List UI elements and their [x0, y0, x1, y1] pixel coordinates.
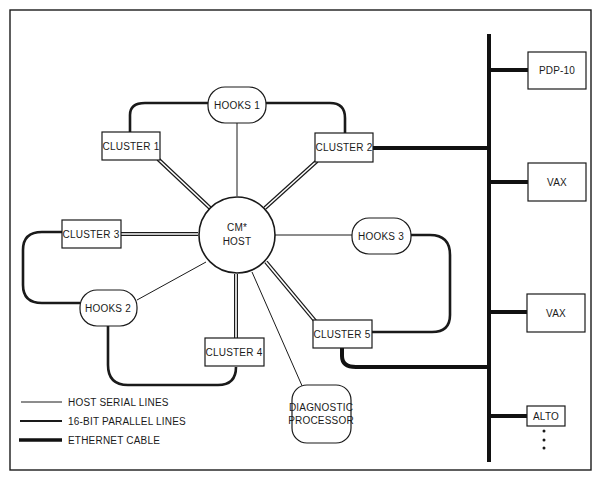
pdp10-node: PDP-10 — [528, 52, 586, 89]
cluster-1-label: CLUSTER 1 — [103, 141, 160, 152]
cluster-4-label: CLUSTER 4 — [206, 347, 263, 358]
vax-2-label: VAX — [546, 308, 566, 319]
cm-host-label-1: CM* — [227, 222, 247, 233]
hooks-2-label: HOOKS 2 — [85, 303, 131, 314]
legend-ethernet-label: ETHERNET CABLE — [68, 435, 160, 446]
hooks-2-node: HOOKS 2 — [80, 290, 137, 326]
alto-node: ALTO — [527, 406, 565, 426]
cluster-2-label: CLUSTER 2 — [316, 142, 373, 153]
hooks-1-node: HOOKS 1 — [208, 87, 266, 123]
cluster-4-node: CLUSTER 4 — [205, 338, 264, 366]
diagnostic-label-2: PROCESSOR — [288, 415, 354, 426]
hooks-1-label: HOOKS 1 — [214, 100, 260, 111]
hooks-3-label: HOOKS 3 — [358, 231, 404, 242]
hooks-3-node: HOOKS 3 — [352, 218, 411, 254]
vax-1-label: VAX — [547, 177, 567, 188]
cm-host-node: CM* HOST — [199, 197, 275, 273]
cluster-5-label: CLUSTER 5 — [314, 329, 371, 340]
vax-1-node: VAX — [528, 163, 586, 201]
cluster-3-label: CLUSTER 3 — [63, 229, 120, 240]
vax-2-node: VAX — [527, 294, 585, 332]
alto-label: ALTO — [533, 411, 559, 422]
diagnostic-processor-node: DIAGNOSTIC PROCESSOR — [288, 385, 354, 443]
legend: HOST SERIAL LINES 16-BIT PARALLEL LINES … — [19, 397, 186, 446]
cluster-1-node: CLUSTER 1 — [102, 132, 160, 160]
cm-star-network-diagram: CM* HOST HOOKS 1 HOOKS 2 HOOKS 3 CLUSTER… — [0, 0, 607, 485]
cm-host-label-2: HOST — [223, 236, 252, 247]
continuation-dots — [543, 430, 546, 450]
legend-serial-label: HOST SERIAL LINES — [68, 397, 169, 408]
diagnostic-label-1: DIAGNOSTIC — [289, 402, 353, 413]
cluster-5-node: CLUSTER 5 — [313, 320, 372, 348]
legend-parallel-label: 16-BIT PARALLEL LINES — [68, 416, 186, 427]
cluster-2-node: CLUSTER 2 — [315, 133, 373, 162]
pdp10-label: PDP-10 — [539, 65, 575, 76]
cluster-3-node: CLUSTER 3 — [62, 220, 121, 248]
